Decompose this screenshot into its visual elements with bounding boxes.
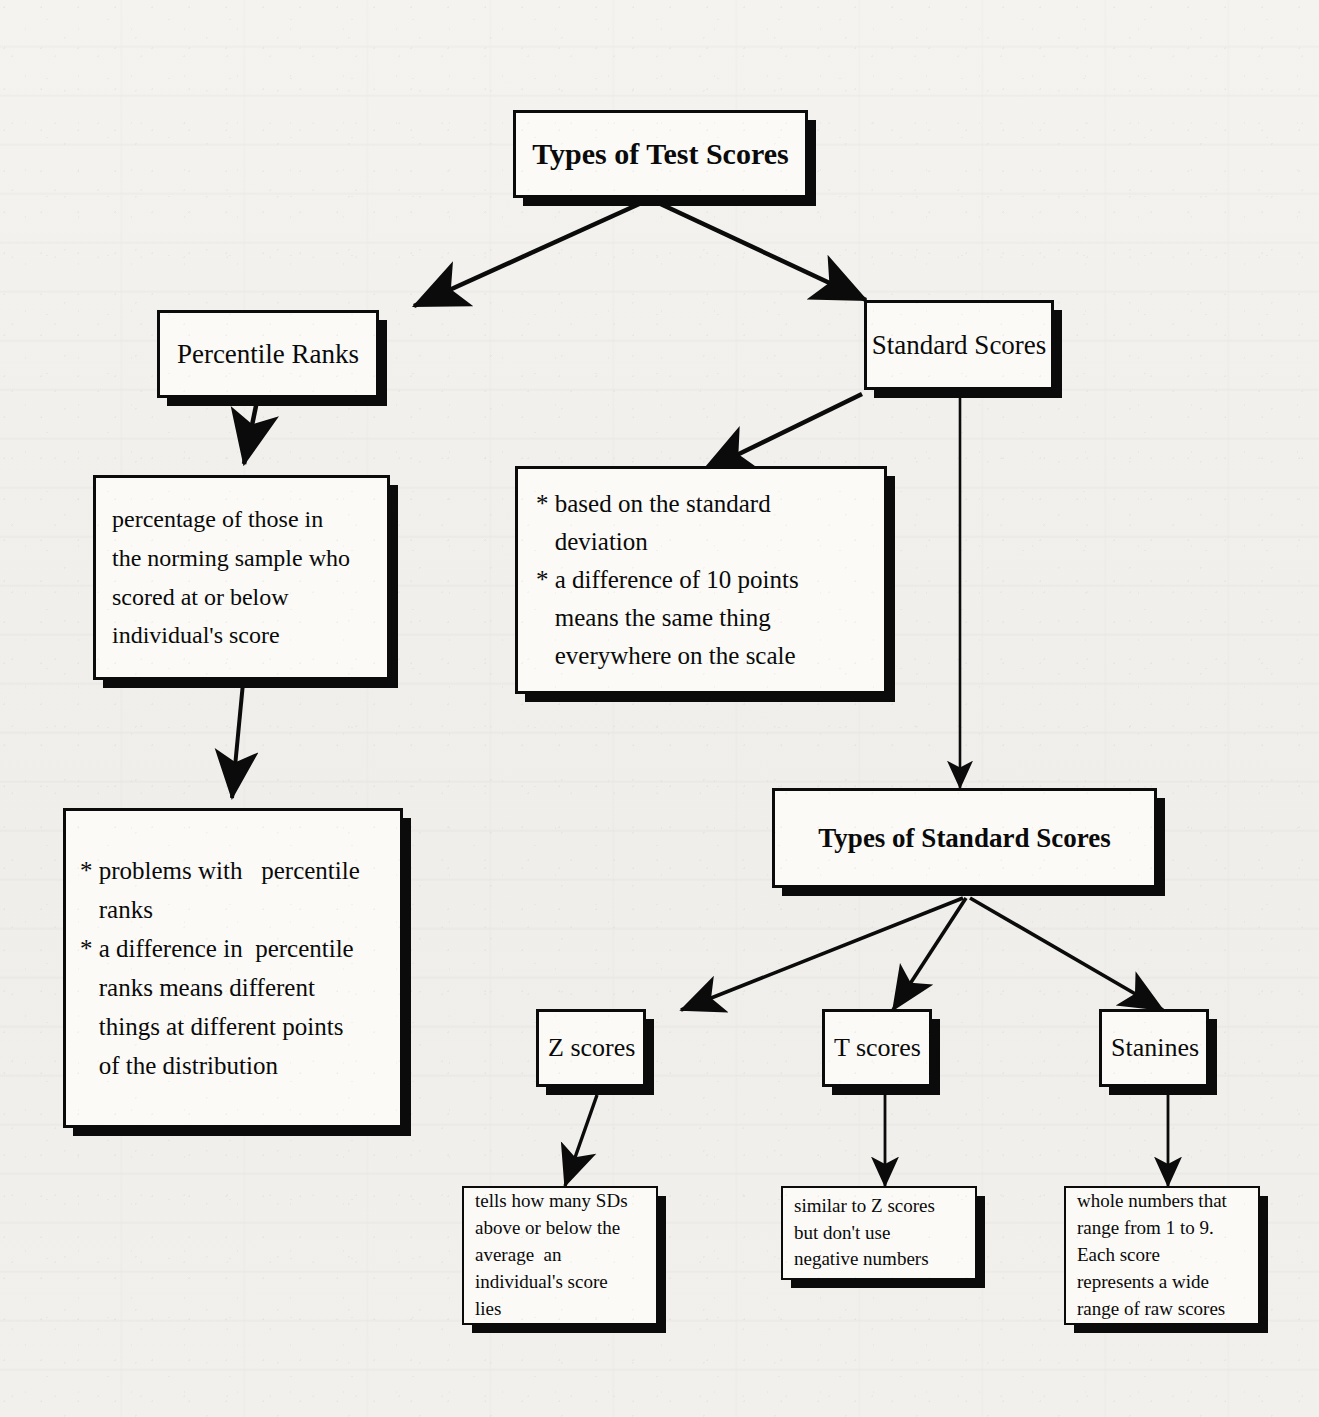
node-label: Types of Standard Scores — [818, 823, 1110, 854]
node-t-score-definition[interactable]: similar to Z scores but don't use negati… — [781, 1186, 977, 1280]
node-label: similar to Z scores but don't use negati… — [794, 1193, 935, 1274]
node-percentile-rank-problems[interactable]: * problems with percentile ranks * a dif… — [63, 808, 403, 1128]
node-types-of-test-scores[interactable]: Types of Test Scores — [513, 110, 808, 198]
node-label: * problems with percentile ranks * a dif… — [80, 851, 360, 1085]
node-stanines[interactable]: Stanines — [1099, 1009, 1209, 1087]
node-types-of-standard-scores[interactable]: Types of Standard Scores — [772, 788, 1157, 888]
node-standard-scores[interactable]: Standard Scores — [864, 300, 1054, 390]
node-label: Types of Test Scores — [532, 137, 788, 171]
node-label: T scores — [834, 1033, 921, 1063]
node-standard-score-properties[interactable]: * based on the standard deviation * a di… — [515, 466, 887, 694]
node-stanine-definition[interactable]: whole numbers that range from 1 to 9. Ea… — [1064, 1186, 1260, 1325]
node-label: percentage of those in the norming sampl… — [112, 500, 350, 656]
node-label: Stanines — [1111, 1033, 1199, 1063]
node-t-scores[interactable]: T scores — [822, 1009, 932, 1087]
node-z-scores[interactable]: Z scores — [536, 1009, 646, 1087]
node-label: Percentile Ranks — [177, 339, 359, 370]
node-label: Z scores — [548, 1033, 635, 1063]
node-label: Standard Scores — [872, 330, 1047, 361]
node-z-score-definition[interactable]: tells how many SDs above or below the av… — [462, 1186, 658, 1325]
node-percentile-rank-definition[interactable]: percentage of those in the norming sampl… — [93, 475, 390, 680]
node-label: * based on the standard deviation * a di… — [536, 485, 799, 675]
node-label: tells how many SDs above or below the av… — [475, 1188, 628, 1323]
node-percentile-ranks[interactable]: Percentile Ranks — [157, 310, 379, 398]
node-label: whole numbers that range from 1 to 9. Ea… — [1077, 1188, 1227, 1323]
